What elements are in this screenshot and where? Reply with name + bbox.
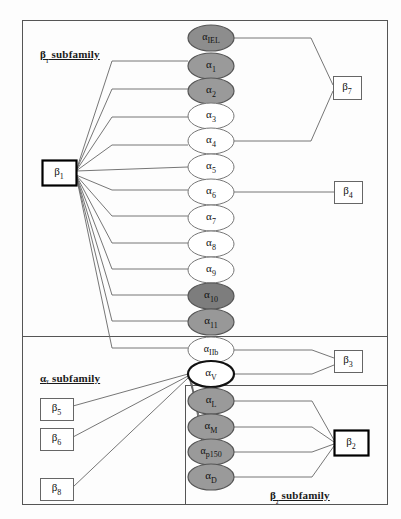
beta1-panel-label: β₁ subfamily [40, 48, 100, 63]
node-alpha-IEL-label: αIEL [202, 31, 220, 45]
node-alpha-D-label: αD [205, 469, 217, 484]
edge-beta-1-to-alpha-8 [76, 175, 188, 243]
node-alpha-6-label: α6 [206, 184, 216, 199]
node-beta-8-label: β8 [52, 481, 62, 496]
node-alpha-M-label: αM [205, 419, 218, 434]
node-alpha-IIb-label: αIIb [204, 343, 219, 357]
figure-canvas: β₁ subfamilyαᵛ subfamilyβ₂ subfamilyαIEL… [0, 0, 401, 519]
node-beta-1-label: β1 [54, 165, 64, 180]
node-alpha-8-label: α8 [206, 236, 216, 251]
node-beta-6-label: β6 [52, 431, 62, 446]
edge-alpha-4-to-beta-7 [234, 91, 333, 141]
node-alpha-3-label: α3 [206, 108, 216, 123]
edge-beta-1-to-alpha-10 [76, 175, 188, 295]
edge-beta-1-to-alpha-1 [76, 61, 188, 171]
node-alpha-p150-label: αp150 [200, 445, 221, 459]
edge-alpha-M-to-beta-2 [234, 427, 334, 442]
edge-beta-1-to-alpha-11 [76, 175, 188, 321]
node-beta-2-label: β2 [346, 435, 356, 450]
beta2-panel-label: β₂ subfamily [270, 489, 330, 504]
edge-alpha-p150-to-beta-2 [234, 444, 334, 452]
edge-beta-1-to-alpha-5 [76, 167, 188, 171]
edge-alpha-D-to-beta-2 [234, 446, 334, 477]
edge-beta-1-to-alpha-4 [76, 145, 188, 171]
node-alpha-2-label: α2 [206, 83, 216, 98]
node-alpha-11-label: α11 [204, 314, 217, 329]
edge-alpha-V-to-beta-8 [73, 378, 188, 487]
edge-beta-1-to-alpha-3 [76, 117, 188, 171]
node-alpha-10-label: α10 [204, 288, 218, 303]
edge-beta-1-to-alpha-7 [76, 175, 188, 216]
alphaV-panel-label: αᵛ subfamily [40, 372, 100, 387]
edge-beta-1-to-alpha-6 [76, 175, 188, 190]
node-alpha-9-label: α9 [206, 262, 216, 277]
node-alpha-4-label: α4 [206, 133, 216, 148]
edge-alpha-V-to-beta-3 [234, 365, 334, 374]
node-beta-7-label: β7 [342, 80, 352, 95]
edge-alpha-L-to-beta-2 [234, 401, 334, 440]
edge-alpha-IIb-to-beta-3 [234, 350, 334, 358]
node-alpha-L-label: αL [206, 393, 217, 408]
edge-alpha-IEL-to-beta-7 [234, 38, 333, 85]
node-alpha-5-label: α5 [206, 159, 216, 174]
node-alpha-7-label: α7 [206, 210, 216, 225]
node-beta-5-label: β5 [52, 401, 62, 416]
node-alpha-1-label: α1 [206, 58, 216, 73]
node-alpha-V-label: αV [205, 366, 217, 381]
node-beta-3-label: β3 [343, 353, 353, 368]
node-beta-4-label: β4 [343, 184, 353, 199]
edge-beta-1-to-alpha-IIb [76, 175, 188, 348]
